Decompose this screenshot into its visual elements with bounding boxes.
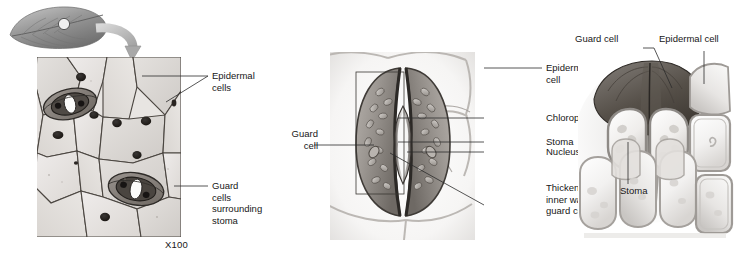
label-guard-cells-surrounding-stoma: Guard cells surrounding stoma <box>212 180 262 226</box>
label-epidermal-cell-right: Epidermal cell <box>659 33 719 45</box>
label-epidermal-cells: Epidermal cells <box>212 70 255 93</box>
label-guard-cell-right: Guard cell <box>575 33 618 45</box>
magnification-caption: X100 <box>165 239 188 250</box>
leaf-inset <box>2 2 162 64</box>
label-guard-cell-middle: Guard cell <box>274 128 318 151</box>
label-stoma-right: Stoma <box>620 185 647 197</box>
magnified-area-circle <box>58 18 69 29</box>
micrograph-leader-lines <box>130 60 210 210</box>
stomata-figure: Epidermal cells Guard cells surrounding … <box>0 0 738 260</box>
leaf-blade <box>10 7 106 49</box>
cross-section-leader-lines <box>568 42 738 222</box>
panel-base-shadow <box>584 233 726 238</box>
surface-view-leader-lines <box>278 50 548 250</box>
